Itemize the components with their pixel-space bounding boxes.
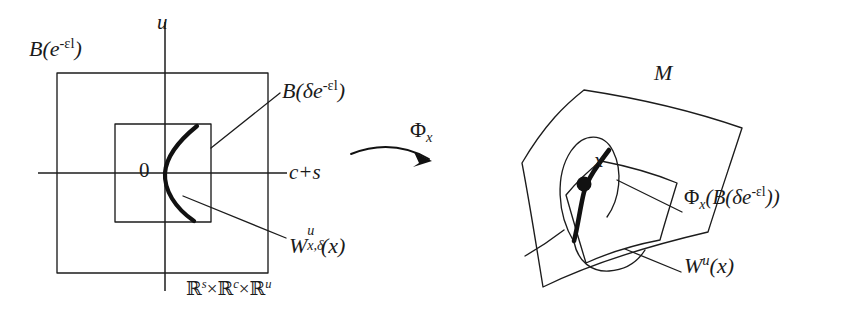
point-x-dot: [577, 177, 592, 192]
image-box-patch: [566, 161, 677, 263]
image-box-label: Φx(B(δe-εl)): [684, 185, 780, 212]
leader-unstable-manifold: [625, 249, 681, 272]
outer-box-label: B(e-εl): [29, 36, 82, 60]
point-label-x: x: [594, 150, 603, 171]
leader-inner-box: [211, 93, 280, 148]
unstable-leaf-tail: [525, 230, 564, 256]
axis-label-c-plus-s: c+s: [289, 162, 321, 183]
leader-image-box: [617, 180, 682, 212]
unstable-leaf-loop: [560, 137, 619, 242]
inner-box-label: B(δe-εl): [282, 78, 345, 102]
bold-unstable-arc: [574, 150, 609, 241]
inner-box-exponent: -εl: [323, 77, 338, 93]
ambient-space-label: ℝs×ℝc×ℝu: [186, 278, 272, 298]
leader-local-manifold: [183, 196, 286, 238]
unstable-manifold-label: Wu(x): [684, 253, 734, 277]
math-figure: u B(e-εl) B(δe-εl) 0 c+s Wux,δ(x) ℝs×ℝc×…: [0, 0, 843, 319]
outer-box-exponent: -εl: [60, 35, 75, 51]
map-label-phi-x: Φx: [410, 119, 433, 145]
manifold-label-M: M: [654, 62, 672, 84]
map-arrow-group: [351, 147, 432, 167]
local-unstable-manifold-label: Wux,δ(x): [289, 231, 345, 257]
local-manifold-indices: ux,δ: [307, 231, 321, 253]
origin-label: 0: [139, 160, 150, 181]
axis-label-u: u: [157, 12, 168, 33]
left-chart-group: [38, 22, 287, 291]
